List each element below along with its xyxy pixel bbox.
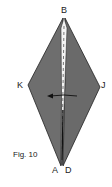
kite-left-flap [28,18,63,166]
kite-right-flap [63,18,100,166]
label-b: B [61,5,67,15]
label-j: J [101,80,106,90]
origami-diagram: B K J A D Fig. 10 [0,0,112,187]
label-d: D [65,165,72,175]
figure-caption: Fig. 10 [13,150,38,159]
label-k: K [17,80,23,90]
label-a: A [52,165,58,175]
